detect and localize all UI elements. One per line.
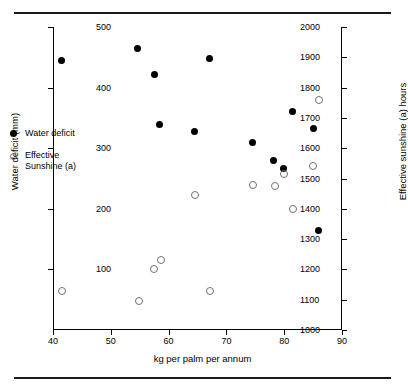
legend: Water deficit Effective Sunshine (a) [8,128,76,183]
data-point [58,57,65,64]
data-point [310,125,317,132]
data-point [309,162,317,170]
x-axis-line [53,329,342,330]
y-axis-right-tick [342,209,347,210]
data-point [134,45,141,52]
y-axis-right-tick-label: 1300 [300,235,320,244]
x-axis-tick-label: 90 [327,337,357,346]
legend-label-effective-sunshine-line1: Effective [25,150,59,160]
y-axis-right-tick [342,239,347,240]
y-axis-left-tick [48,88,53,89]
y-axis-left-tick-label: 500 [96,23,111,32]
legend-item-effective-sunshine: Effective Sunshine (a) [8,150,76,172]
y-axis-right-tick [342,179,347,180]
y-axis-right-tick-label: 1700 [300,114,320,123]
x-axis-tick [342,330,343,335]
data-point [315,96,323,104]
data-point [206,55,213,62]
data-point [206,287,214,295]
x-axis-tick [226,330,227,335]
data-point [191,191,199,199]
y-axis-right-tick [342,269,347,270]
data-point [157,256,165,264]
data-point [191,128,198,135]
y-axis-right-tick [342,118,347,119]
x-axis-tick [284,330,285,335]
data-point [289,108,296,115]
data-point [315,227,322,234]
y-axis-right-tick-label: 1200 [300,265,320,274]
x-axis-tick-label: 60 [154,337,184,346]
y-axis-right-tick-label: 1800 [300,84,320,93]
data-point [249,181,257,189]
legend-label-water-deficit: Water deficit [25,128,75,138]
data-point [280,170,288,178]
y-axis-right-tick-label: 2000 [300,23,320,32]
y-axis-left-tick-label: 100 [96,265,111,274]
y-axis-right-tick-label: 1000 [300,326,320,335]
y-axis-right-tick [342,88,347,89]
plot-area [53,27,342,330]
figure-bottom-rule [14,377,391,379]
x-axis-tick [111,330,112,335]
x-axis-tick-label: 80 [269,337,299,346]
legend-label-effective-sunshine-line2: Sunshine (a) [25,161,76,171]
y-axis-right-tick-label: 1900 [300,53,320,62]
open-circle-marker-icon [10,153,17,160]
y-axis-left-tick-label: 200 [96,205,111,214]
x-axis-title: kg per palm per annum [0,353,405,364]
data-point [270,157,277,164]
y-axis-right-tick-label: 1400 [300,205,320,214]
y-axis-right-tick [342,27,347,28]
figure-top-rule [14,12,391,14]
y-axis-right-tick [342,148,347,149]
data-point [156,121,163,128]
data-point [135,297,143,305]
x-axis-tick-label: 70 [211,337,241,346]
y-axis-left-tick-label: 300 [96,144,111,153]
y-axis-right-tick-label: 1100 [300,296,319,305]
filled-circle-marker-icon [10,130,17,137]
y-axis-right-tick-label: 1500 [300,175,320,184]
y-axis-right-tick [342,300,347,301]
y-axis-left-tick-label: 400 [96,84,111,93]
y-axis-right-title: Effective sunshine (a) hours [397,42,408,242]
y-axis-left-tick [48,209,53,210]
legend-item-water-deficit: Water deficit [8,128,76,139]
x-axis-tick-label: 50 [96,337,126,346]
data-point [151,71,158,78]
data-point [271,182,279,190]
y-axis-right-tick [342,57,347,58]
y-axis-right-tick-label: 1600 [300,144,320,153]
data-point [289,205,297,213]
x-axis-tick [169,330,170,335]
y-axis-left-tick [48,269,53,270]
data-point [249,139,256,146]
x-axis-tick-label: 40 [38,337,68,346]
data-point [150,265,158,273]
x-axis-tick [53,330,54,335]
data-point [58,287,66,295]
y-axis-left-tick [48,27,53,28]
